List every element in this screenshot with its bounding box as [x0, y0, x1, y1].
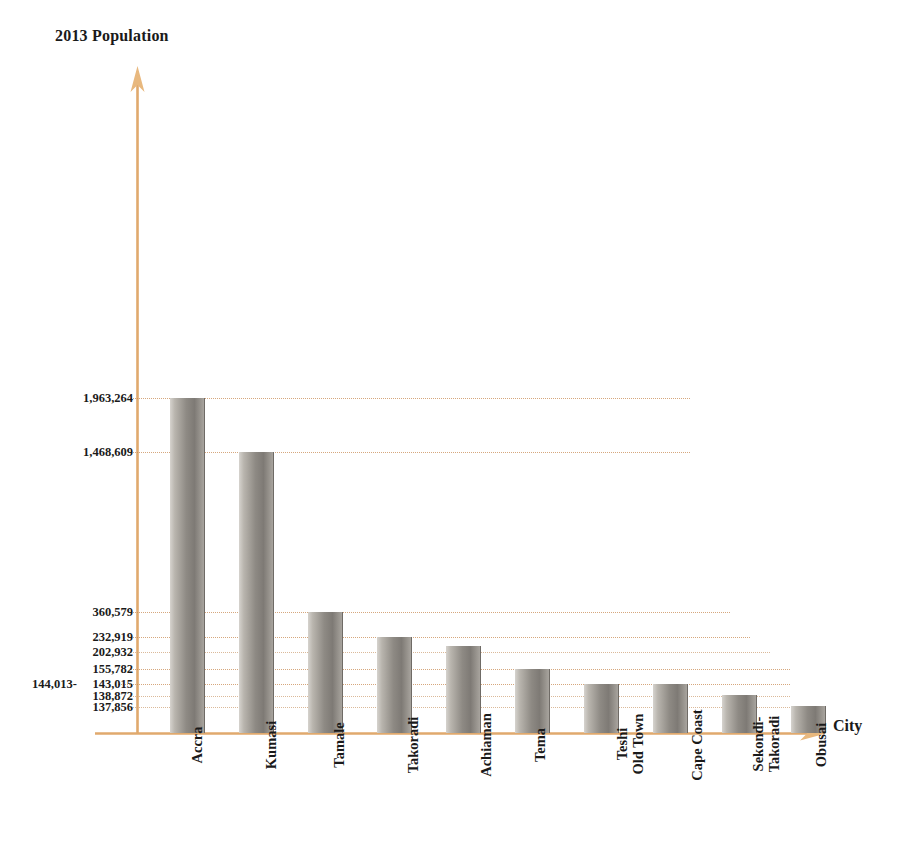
bar-tema[interactable]	[515, 669, 550, 733]
y-axis-labels: 1,963,264 1,468,609 360,579 232,919 202,…	[0, 0, 133, 853]
x-label-tamale: Tamale	[308, 740, 342, 758]
bar-kumasi[interactable]	[239, 452, 274, 733]
x-label-line: Achiaman	[478, 713, 494, 777]
bar-chart: 2013 Population City 1,963,264 1,468,609…	[0, 0, 899, 853]
x-label-line: Tamale	[331, 722, 347, 767]
bar-accra[interactable]	[170, 398, 205, 733]
x-label-line: Obusai	[813, 723, 829, 767]
x-label-line: Cape Coast	[689, 709, 705, 780]
y-tick-label: 137,856	[92, 701, 133, 714]
x-label-kumasi: Kumasi	[239, 740, 273, 758]
x-label-cape-coast: Cape Coast	[653, 740, 687, 758]
x-label-takoradi: Takoradi	[377, 740, 411, 758]
x-axis-title: City	[833, 717, 862, 735]
y-tick-label: 1,468,609	[83, 446, 133, 459]
x-axis-labels: Accra Kumasi Tamale Takoradi Achiaman Te…	[137, 740, 827, 853]
x-label-accra: Accra	[170, 740, 204, 758]
x-label-line: Teshi	[614, 728, 630, 761]
x-label-teshi-old-town: TeshiOld Town	[584, 740, 618, 773]
x-label-line: Tema	[532, 728, 548, 762]
y-tick-label: 1,963,264	[83, 392, 133, 405]
x-label-line: Accra	[189, 726, 205, 763]
x-label-line: Old Town	[631, 714, 647, 775]
bar-tamale[interactable]	[308, 612, 343, 733]
bar-cape-coast[interactable]	[653, 684, 688, 733]
x-label-sekondi-takoradi: Sekondi-Takoradi	[722, 740, 756, 773]
y-tick-label: 360,579	[92, 606, 133, 619]
x-label-obusai: Obusai	[791, 740, 825, 758]
y-tick-label: 202,932	[92, 646, 133, 659]
x-label-line: Kumasi	[263, 721, 279, 769]
x-label-line: Takoradi	[767, 716, 783, 773]
x-label-achiaman: Achiaman	[446, 740, 480, 758]
y-tick-label: 232,919	[92, 631, 133, 644]
x-label-line: Sekondi-	[750, 717, 766, 772]
y-tick-label-extra: 144,013-	[32, 678, 77, 691]
x-label-line: Takoradi	[405, 717, 421, 774]
plot-area	[137, 70, 827, 733]
x-label-tema: Tema	[515, 740, 549, 758]
bar-achiaman[interactable]	[446, 646, 481, 733]
y-tick-label: 155,782	[92, 663, 133, 676]
